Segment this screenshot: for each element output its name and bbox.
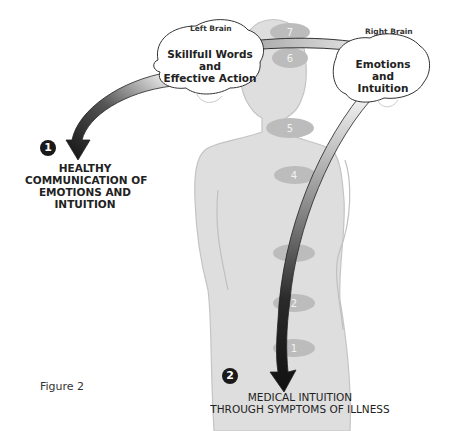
path-1-line-4: INTUITION xyxy=(25,198,145,210)
svg-text:4: 4 xyxy=(291,170,297,181)
figure-caption: Figure 2 xyxy=(40,380,84,393)
left-brain-line-2: and xyxy=(160,60,260,72)
right-brain-label: Right Brain xyxy=(365,27,413,36)
path-2-number-badge: 2 xyxy=(222,368,238,384)
svg-text:6: 6 xyxy=(287,53,293,64)
right-brain-text: Emotions and Intuition xyxy=(348,58,418,94)
left-brain-line-3: Effective Action xyxy=(160,72,260,84)
path-2-line-2: THROUGH SYMPTOMS OF ILLNESS xyxy=(195,403,405,415)
left-brain-text: Skillfull Words and Effective Action xyxy=(160,48,260,84)
svg-text:1: 1 xyxy=(291,343,297,354)
right-brain-line-3: Intuition xyxy=(348,82,418,94)
path-1-caption: HEALTHY COMMUNICATION OF EMOTIONS AND IN… xyxy=(25,162,145,210)
path-1-number-badge: 1 xyxy=(40,140,56,156)
svg-text:2: 2 xyxy=(291,298,297,309)
left-brain-line-1: Skillfull Words xyxy=(160,48,260,60)
path-1-line-3: EMOTIONS AND xyxy=(25,186,145,198)
right-brain-line-1: Emotions xyxy=(348,58,418,70)
right-brain-line-2: and xyxy=(348,70,418,82)
arrow-1 xyxy=(66,72,172,160)
svg-text:5: 5 xyxy=(287,123,293,134)
path-2-line-1: MEDICAL INTUITION xyxy=(195,391,405,403)
left-brain-label: Left Brain xyxy=(190,24,232,33)
path-1-line-1: HEALTHY xyxy=(25,162,145,174)
path-2-caption: MEDICAL INTUITION THROUGH SYMPTOMS OF IL… xyxy=(195,391,405,415)
svg-text:7: 7 xyxy=(287,27,293,38)
path-1-line-2: COMMUNICATION OF xyxy=(25,174,145,186)
